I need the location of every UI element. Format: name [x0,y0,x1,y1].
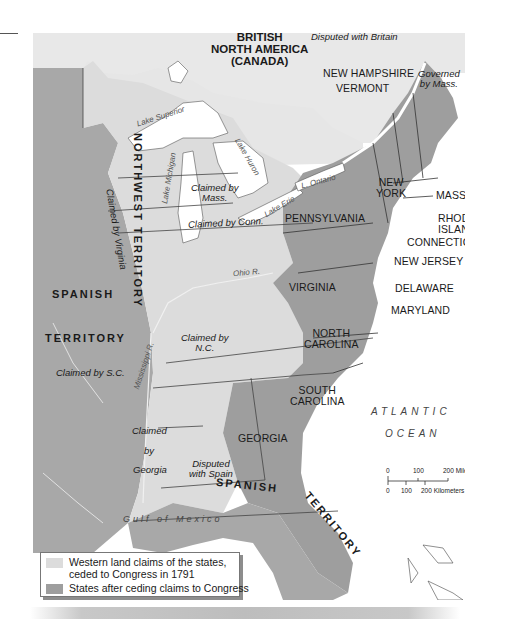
label-british-north-america: BRITISH NORTH AMERICA (CANADA) [211,33,308,67]
label-north-carolina: NORTH CAROLINA [304,328,358,350]
label-gulf-of-mexico: Gulf of Mexico [123,515,223,524]
label-vermont: VERMONT [336,83,389,94]
scale-km-0: 0 [386,487,390,494]
legend-item-western-claims: Western land claims of the states, ceded… [46,556,226,580]
legend-swatch-light [46,558,63,568]
legend-label: Western land claims of the states, ceded… [69,556,226,580]
label-connecticut: CONNECTICUT [407,237,465,248]
label-line: N.C. [181,343,229,353]
label-line: (CANADA) [211,55,308,67]
label-georgia: GEORGIA [238,433,288,444]
label-delaware: DELAWARE [395,283,454,294]
label-line: by [111,225,124,237]
title-rule [0,33,18,34]
bottom-gradient-bar [30,607,460,619]
label-pennsylvania: PENNSYLVANIA [285,213,365,224]
legend-item-states: States after ceding claims to Congress [46,582,249,594]
label-line: NORTH AMERICA [211,43,308,55]
label-territory-west: TERRITORY [45,333,126,345]
legend-label-line: Western land claims of the states, [69,556,226,568]
label-maryland: MARYLAND [391,305,450,316]
legend-label-line: ceded to Congress in 1791 [69,568,226,580]
map-frame: BRITISH NORTH AMERICA (CANADA) Disputed … [33,33,465,600]
label-line: Mass. [191,193,239,203]
label-line: CAROLINA [304,339,358,350]
legend-swatch-dark [46,584,63,594]
scale-miles-200: 200 Miles [443,467,465,474]
label-northwest-territory: NORTHWEST TERRITORY [131,133,143,308]
scale-km-200: 200 Kilometers [421,487,464,494]
label-line: YORK [376,188,406,199]
label-claimed-by-georgia-1: Claimed [132,426,167,436]
scale-miles-0: 0 [386,467,390,474]
label-virginia: VIRGINIA [289,282,336,293]
label-atlantic: ATLANTIC [371,407,451,418]
scale-km-100: 100 [401,487,412,494]
label-south-carolina: SOUTH CAROLINA [290,385,344,407]
map-canvas [33,33,465,600]
label-line: ISLAND [438,224,465,235]
map-legend: Western land claims of the states, ceded… [40,552,240,597]
label-rhode-island: RHODE ISLAND [438,213,465,235]
legend-label: States after ceding claims to Congress [69,582,249,594]
label-mass: MASS. [436,190,465,201]
label-spanish-west: SPANISH [52,289,114,301]
label-line: CAROLINA [290,396,344,407]
label-claimed-by-georgia-2: by [144,446,154,456]
label-claimed-by-georgia-3: Georgia [133,465,167,475]
scale-miles-100: 100 [413,467,424,474]
label-new-hampshire: NEW HAMPSHIRE [323,68,414,79]
label-new-jersey: NEW JERSEY [394,256,463,267]
label-ocean: OCEAN [385,429,441,440]
label-claimed-by-nc: Claimed by N.C. [181,333,229,353]
label-new-york: NEW YORK [376,177,406,199]
label-claimed-by-mass: Claimed by Mass. [191,183,239,203]
label-claimed-by-sc: Claimed by S.C. [56,368,125,378]
label-disputed-with-britain: Disputed with Britain [311,33,398,42]
label-line: BRITISH [211,33,308,43]
label-governed-by-mass: Governed by Mass. [418,69,460,89]
label-line: by Mass. [418,79,460,89]
